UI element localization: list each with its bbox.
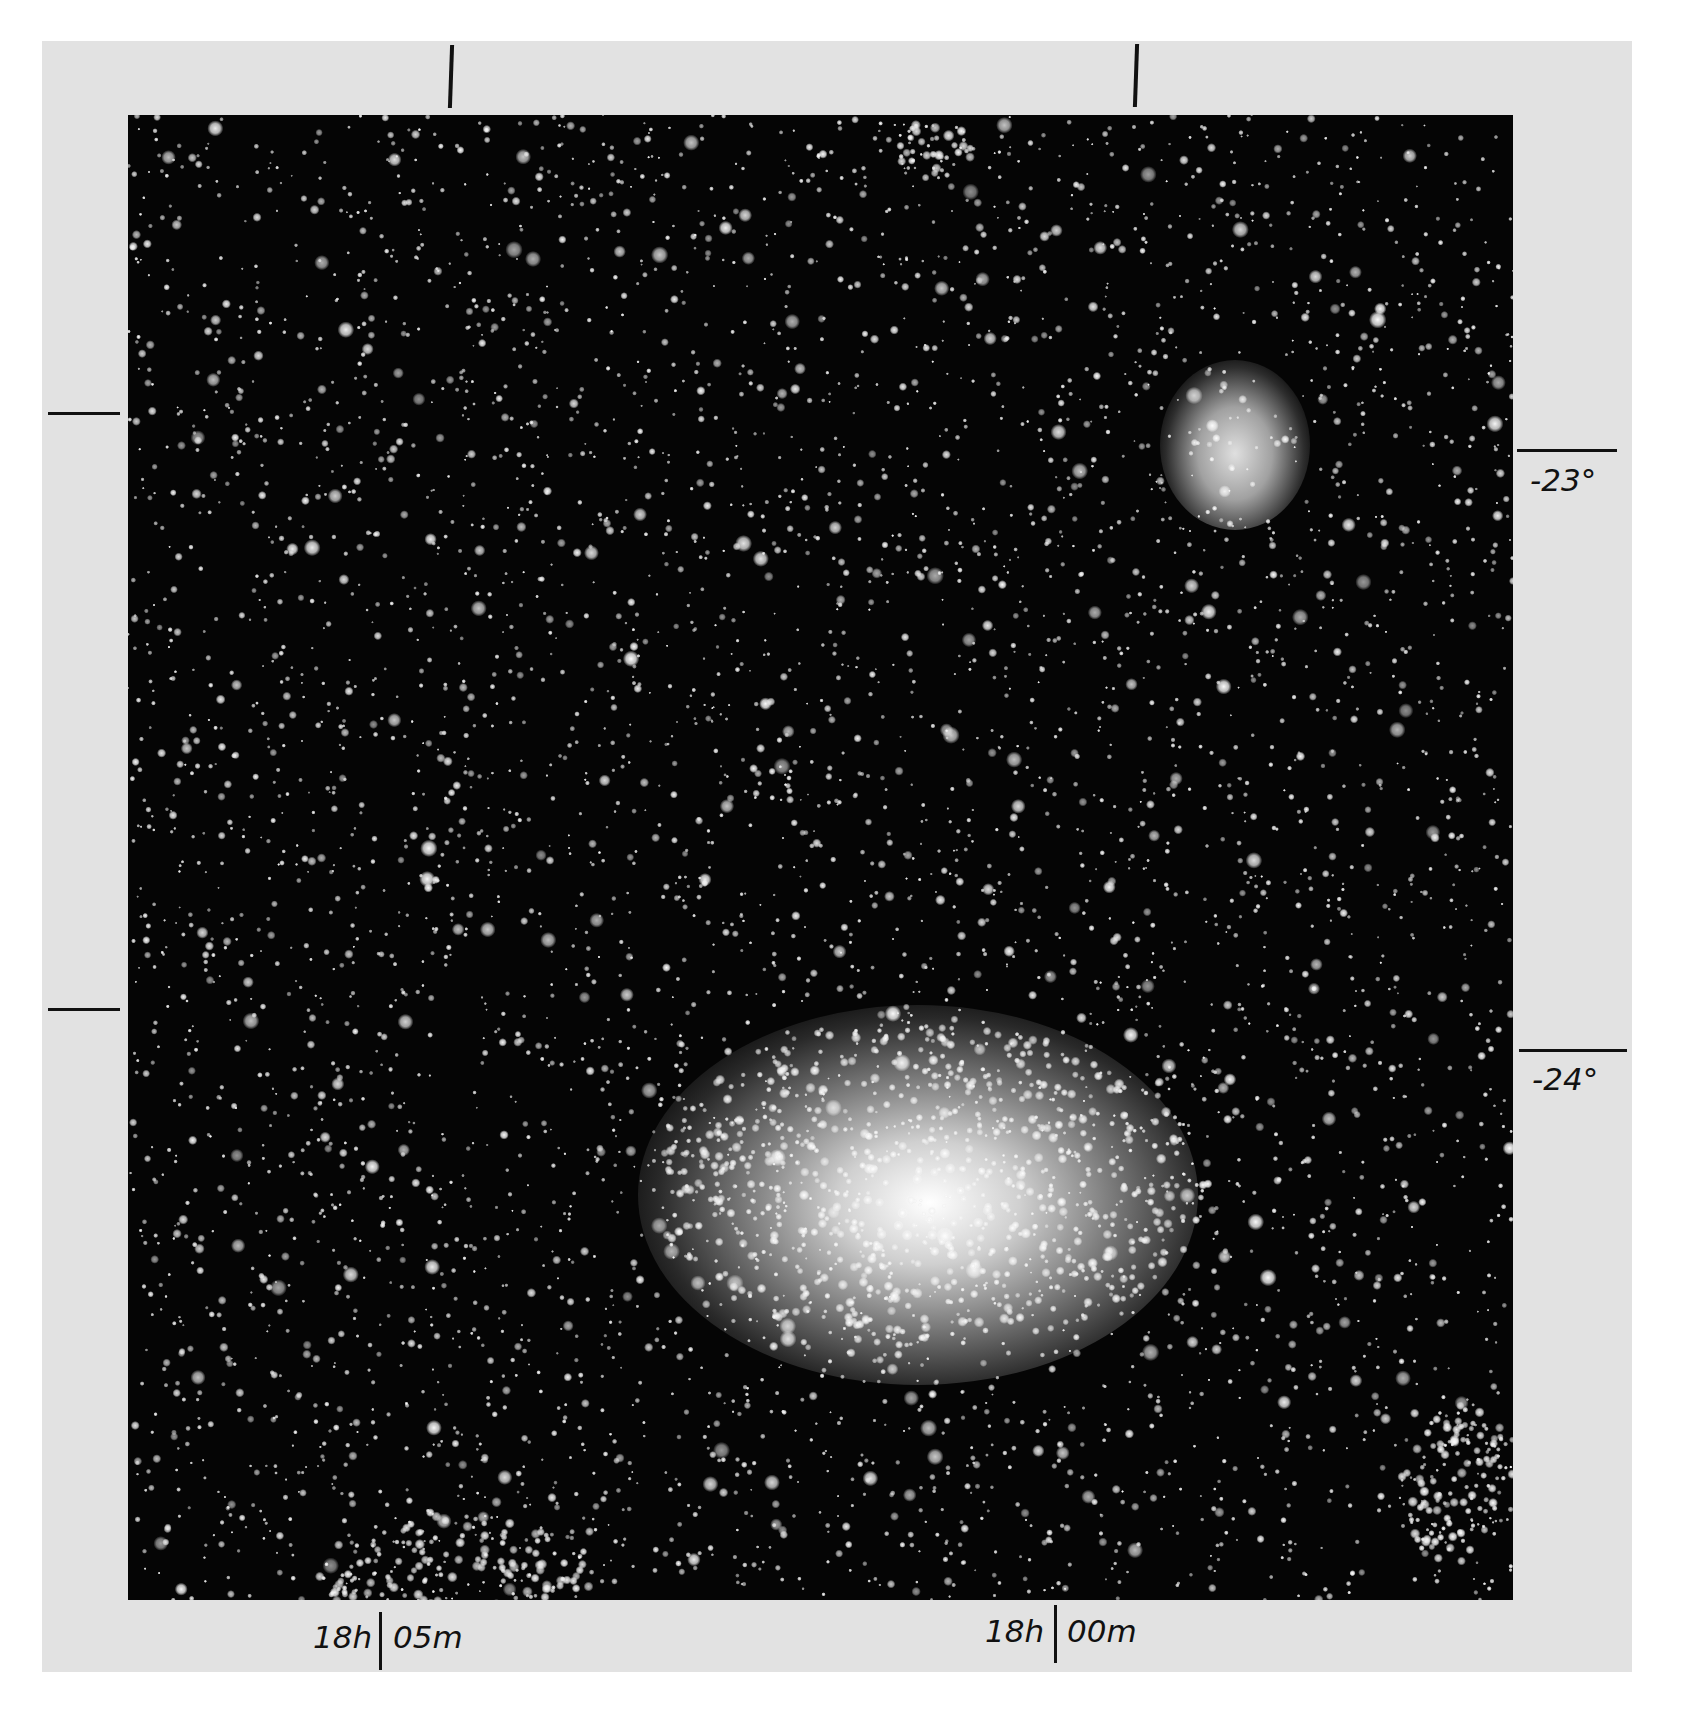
ra-sep-00 [1054, 1605, 1057, 1663]
star-field-image [128, 115, 1513, 1600]
stars-canvas [128, 115, 1513, 1600]
dec-label-24: -24° [1532, 1064, 1598, 1095]
dec-line-23 [1517, 449, 1617, 452]
dec-label-23: -23° [1530, 465, 1596, 496]
left-tick-1 [48, 412, 120, 415]
ra-label-00-minutes: 00m [1067, 1616, 1137, 1647]
dec-line-24 [1519, 1049, 1627, 1052]
ra-label-05-minutes: 05m [393, 1622, 463, 1653]
left-tick-2 [48, 1008, 120, 1011]
ra-label-00-hours: 18h [985, 1616, 1044, 1647]
ra-sep-05 [379, 1612, 382, 1670]
ra-label-05-hours: 18h [313, 1622, 372, 1653]
